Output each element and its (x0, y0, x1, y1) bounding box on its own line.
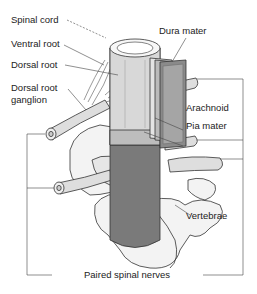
spinal-cord-diagram: Spinal cord Ventral root Dorsal root Dor… (0, 0, 257, 294)
label-dura-mater: Dura mater (159, 25, 207, 36)
label-pia-mater: Pia mater (186, 120, 227, 131)
label-dorsal-root-ganglion-2: ganglion (11, 94, 47, 105)
meninges-layers (150, 58, 186, 148)
label-dorsal-root: Dorsal root (11, 59, 57, 70)
label-vertebrae: Vertebrae (186, 210, 227, 221)
label-spinal-cord: Spinal cord (11, 14, 59, 25)
label-dorsal-root-ganglion-1: Dorsal root (11, 82, 57, 93)
label-paired-spinal-nerves: Paired spinal nerves (82, 269, 172, 280)
label-ventral-root: Ventral root (11, 38, 60, 49)
label-arachnoid: Arachnoid (186, 102, 229, 113)
